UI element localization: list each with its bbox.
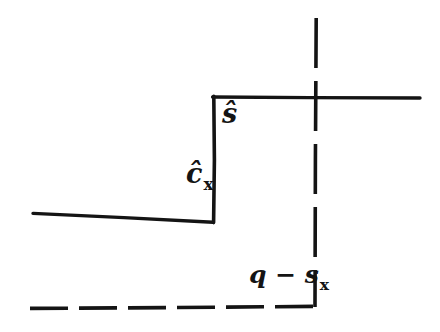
figure-canvas-container: ŝ ĉx q − sx: [0, 0, 440, 332]
label-q-minus-s: q − sx: [249, 262, 329, 292]
label-q-minus-s-symbol: q − s: [249, 260, 319, 289]
step-riser-solid-line: [214, 96, 215, 222]
label-c-hat-symbol: ĉ: [186, 158, 202, 189]
line-diagram-svg: [0, 0, 440, 332]
label-s-hat-symbol: ŝ: [222, 98, 237, 129]
label-s-hat: ŝ: [222, 100, 237, 127]
figure-background: [0, 0, 440, 332]
label-q-minus-s-subscript: x: [319, 275, 329, 294]
label-c-hat-subscript: x: [202, 174, 213, 194]
label-c-hat: ĉx: [186, 160, 213, 193]
